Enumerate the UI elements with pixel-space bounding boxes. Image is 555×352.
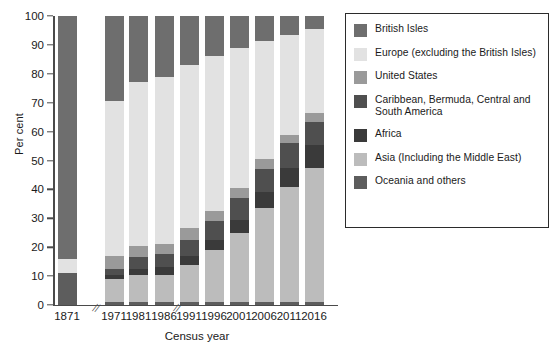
- bar-segment: [280, 16, 299, 35]
- y-tick-label: 30: [18, 212, 44, 224]
- plot-area: [53, 16, 341, 305]
- bar-segment: [205, 240, 224, 250]
- bar-segment: [155, 254, 174, 267]
- legend-item[interactable]: Asia (Including the Middle East): [354, 152, 541, 166]
- bar-segment: [205, 302, 224, 305]
- legend-item[interactable]: United States: [354, 70, 541, 84]
- bar-segment: [155, 302, 174, 305]
- x-tick-label-2001: 2001: [226, 310, 252, 322]
- x-tick-label-1871: 1871: [54, 310, 80, 322]
- legend-item[interactable]: British Isles: [354, 23, 541, 37]
- bar-2016[interactable]: [305, 16, 324, 305]
- bar-segment: [205, 211, 224, 221]
- bar-segment: [105, 269, 124, 275]
- x-tick-label-1991: 1991: [176, 310, 202, 322]
- legend-swatch-icon: [354, 95, 367, 108]
- x-axis-title: Census year: [53, 330, 341, 342]
- x-tick-label-1971: 1971: [101, 310, 127, 322]
- legend-item[interactable]: Oceania and others: [354, 175, 541, 189]
- bar-segment: [129, 269, 148, 275]
- bar-segment: [280, 302, 299, 305]
- legend-swatch-icon: [354, 129, 367, 142]
- bar-segment: [180, 265, 199, 303]
- bar-1981[interactable]: [129, 16, 148, 305]
- bar-segment: [280, 187, 299, 303]
- y-tick-label: 100: [18, 10, 44, 22]
- bar-segment: [129, 275, 148, 302]
- bar-segment: [305, 302, 324, 305]
- bar-segment: [280, 168, 299, 187]
- bar-segment: [255, 208, 274, 302]
- bar-segment: [105, 16, 124, 101]
- x-tick-label-1981: 1981: [126, 310, 152, 322]
- y-tick-label: 50: [18, 155, 44, 167]
- bar-segment: [255, 169, 274, 192]
- bar-segment: [230, 198, 249, 220]
- legend-item[interactable]: Caribbean, Bermuda, Central and South Am…: [354, 94, 541, 119]
- legend-swatch-icon: [354, 24, 367, 37]
- y-tick-label: 80: [18, 68, 44, 80]
- bar-segment: [105, 275, 124, 279]
- legend-label: Europe (excluding the British Isles): [375, 47, 536, 60]
- bar-segment: [105, 302, 124, 305]
- bar-segment: [105, 256, 124, 269]
- legend-label: Oceania and others: [375, 175, 466, 188]
- bar-1971[interactable]: [105, 16, 124, 305]
- y-tick-label: 10: [18, 270, 44, 282]
- bar-segment: [230, 233, 249, 302]
- legend-label: United States: [375, 70, 437, 83]
- bar-1996[interactable]: [205, 16, 224, 305]
- bar-segment: [230, 220, 249, 233]
- bar-segment: [280, 143, 299, 168]
- bar-2001[interactable]: [230, 16, 249, 305]
- legend-label: Africa: [375, 128, 402, 141]
- bar-segment: [58, 273, 77, 305]
- bar-segment: [129, 302, 148, 305]
- stacked-bar-chart: Per cent 0102030405060708090100 18711971…: [0, 0, 555, 352]
- bar-segment: [255, 192, 274, 208]
- legend-label: Asia (Including the Middle East): [375, 152, 521, 165]
- legend-item[interactable]: Europe (excluding the British Isles): [354, 47, 541, 61]
- x-tick-label-2011: 2011: [277, 310, 302, 322]
- bar-segment: [255, 159, 274, 169]
- legend-label: British Isles: [375, 23, 428, 36]
- legend: British IslesEurope (excluding the Briti…: [345, 13, 549, 228]
- bar-segment: [155, 77, 174, 245]
- bar-1991[interactable]: [180, 16, 199, 305]
- bar-1986[interactable]: [155, 16, 174, 305]
- legend-label: Caribbean, Bermuda, Central and South Am…: [375, 94, 541, 119]
- bar-segment: [180, 240, 199, 256]
- bar-segment: [155, 16, 174, 77]
- legend-swatch-icon: [354, 176, 367, 189]
- x-tick-label-1996: 1996: [201, 310, 227, 322]
- bar-segment: [230, 48, 249, 188]
- bar-segment: [305, 122, 324, 145]
- bar-segment: [155, 275, 174, 302]
- y-tick-label: 20: [18, 241, 44, 253]
- bar-segment: [129, 16, 148, 82]
- bar-2006[interactable]: [255, 16, 274, 305]
- x-tick-label-2006: 2006: [251, 310, 277, 322]
- bar-segment: [305, 113, 324, 122]
- bar-segment: [58, 16, 77, 259]
- bar-segment: [205, 250, 224, 302]
- legend-item[interactable]: Africa: [354, 128, 541, 142]
- y-tick-label: 0: [18, 299, 44, 311]
- bar-segment: [155, 244, 174, 254]
- bar-segment: [230, 302, 249, 305]
- bar-2011[interactable]: [280, 16, 299, 305]
- bar-segment: [305, 145, 324, 168]
- bar-segment: [205, 56, 224, 211]
- bar-segment: [255, 16, 274, 41]
- bar-segment: [205, 221, 224, 240]
- bar-segment: [280, 35, 299, 135]
- legend-swatch-icon: [354, 153, 367, 166]
- bar-1871[interactable]: [58, 16, 77, 305]
- bar-segment: [305, 168, 324, 302]
- bar-segment: [205, 16, 224, 56]
- bar-segment: [255, 41, 274, 159]
- bar-segment: [255, 302, 274, 305]
- bar-segment: [230, 16, 249, 48]
- bar-segment: [180, 228, 199, 240]
- bar-segment: [180, 302, 199, 305]
